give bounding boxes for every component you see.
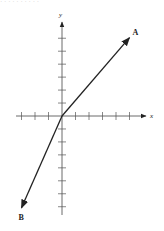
vector-a: [62, 38, 130, 116]
vectors: AB: [19, 28, 139, 222]
coordinate-plane: x y AB: [0, 0, 164, 231]
vector-b: [22, 116, 63, 208]
axis-ticks: [22, 38, 130, 206]
y-axis-label: y: [58, 11, 63, 19]
vector-label-a: A: [133, 28, 139, 37]
vector-label-b: B: [19, 213, 25, 222]
x-axis-label: x: [149, 112, 154, 120]
